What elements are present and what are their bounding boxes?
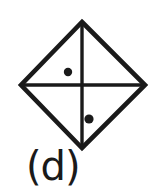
- figure-panel: (d): [0, 0, 156, 189]
- lower-right-dot: [84, 114, 93, 123]
- upper-left-dot: [64, 68, 72, 76]
- figure-caption-label: (d): [0, 143, 156, 189]
